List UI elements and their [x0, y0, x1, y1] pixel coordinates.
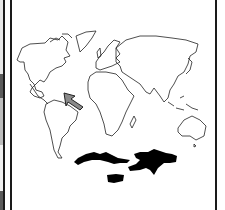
- africa-outline: [88, 72, 134, 136]
- jamaica-shape: [107, 174, 124, 183]
- greenland-outline: [76, 31, 96, 52]
- south-america-outline: [44, 100, 78, 158]
- tasmania-outline: [194, 144, 196, 147]
- north-america-outline: [17, 36, 70, 98]
- world-map: [0, 0, 225, 210]
- cuba-shape: [74, 152, 130, 165]
- hispaniola-shape: [128, 149, 177, 175]
- madagascar-outline: [130, 116, 136, 128]
- arctic-islands-outline: [50, 34, 72, 42]
- asia-outline: [116, 36, 198, 102]
- australia-outline: [178, 116, 206, 140]
- indonesia-outline: [168, 96, 198, 110]
- arrow-icon: [64, 93, 83, 110]
- uk-outline: [97, 48, 101, 58]
- caribbean-islands-inset: [74, 149, 177, 183]
